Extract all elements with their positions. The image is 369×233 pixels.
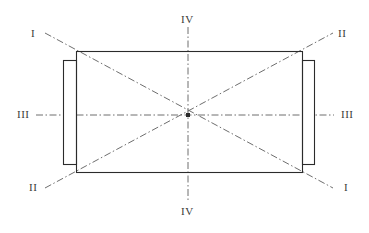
diagram-canvas: I II IV III III II I IV: [0, 0, 369, 233]
diagram-vector-layer: [0, 0, 369, 233]
main-rectangle: [77, 52, 303, 173]
label-IV-top: IV: [181, 14, 194, 25]
left-flange: [64, 61, 77, 165]
label-II-bottom-left: II: [29, 182, 37, 193]
label-I-top-left: I: [31, 28, 35, 39]
label-II-top-right: II: [338, 28, 346, 39]
centroid-marker: [186, 113, 190, 117]
label-I-bottom-right: I: [344, 182, 348, 193]
label-III-right: III: [341, 109, 354, 120]
right-flange: [303, 61, 315, 165]
label-III-left: III: [17, 109, 30, 120]
flange-group: [64, 61, 315, 165]
axis-group: [36, 27, 334, 202]
label-IV-bottom: IV: [181, 206, 194, 217]
